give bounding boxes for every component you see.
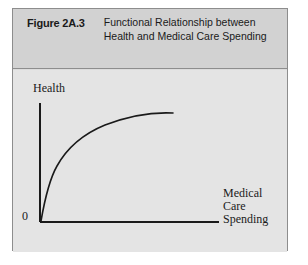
chart-plot-area: Health Medical Care Spending 0 (13, 70, 287, 252)
figure-caption: Functional Relationship between Health a… (104, 16, 279, 43)
origin-label: 0 (22, 209, 28, 224)
figure-card: Figure 2A.3 Functional Relationship betw… (12, 8, 288, 251)
x-axis-label: Medical Care Spending (223, 187, 287, 226)
y-axis-label: Health (33, 82, 65, 95)
figure-number: Figure 2A.3 (27, 16, 85, 30)
health-production-curve (41, 113, 173, 221)
figure-header: Figure 2A.3 Functional Relationship betw… (13, 9, 287, 69)
